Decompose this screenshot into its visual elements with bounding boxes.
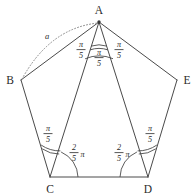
angle-label-adc-numerator: 2 xyxy=(117,143,121,152)
edge-de xyxy=(148,80,177,177)
angle-label-adc-pi: π xyxy=(126,150,131,159)
angle-label-adc: 2 5 π xyxy=(115,143,131,163)
angle-label-ade-numerator: π xyxy=(148,124,153,133)
vertex-labels: A B C D E xyxy=(6,4,190,195)
vertex-label-c: C xyxy=(46,183,54,195)
angle-label-cad: π 5 xyxy=(95,48,104,68)
angle-label-acd: 2 5 π xyxy=(70,143,86,163)
vertex-dot-a xyxy=(97,20,100,23)
pentagon-edges xyxy=(21,22,177,177)
angle-label-bac-numerator: π xyxy=(79,40,84,49)
angle-label-acd-denominator: 5 xyxy=(72,154,76,163)
angle-label-dae-denominator: 5 xyxy=(117,51,121,60)
angle-label-acb-denominator: 5 xyxy=(46,135,50,144)
angle-label-bac: π 5 xyxy=(77,40,86,60)
vertex-label-d: D xyxy=(144,183,152,195)
angle-label-ade-denominator: 5 xyxy=(148,135,152,144)
angle-label-acd-pi: π xyxy=(81,150,86,159)
vertex-label-a: A xyxy=(95,4,104,16)
angle-label-acd-numerator: 2 xyxy=(72,143,76,152)
angle-label-cad-denominator: 5 xyxy=(97,59,101,68)
angle-label-acb-numerator: π xyxy=(46,124,51,133)
angle-label-ade: π 5 xyxy=(146,124,155,144)
edge-ab xyxy=(21,22,99,80)
angle-fraction-labels: π 5 π 5 π 5 π 5 π 5 xyxy=(44,40,155,144)
vertex-label-e: E xyxy=(183,74,190,86)
angle-label-acb: π 5 xyxy=(44,124,53,144)
pentagon-diagram: A B C D E a π 5 π 5 π 5 xyxy=(0,0,195,196)
angle-label-dae: π 5 xyxy=(115,40,124,60)
arc-apex-middle-inner xyxy=(91,45,107,46)
angle-label-adc-denominator: 5 xyxy=(117,154,121,163)
vertex-label-b: B xyxy=(6,74,14,86)
edge-ea xyxy=(99,22,177,80)
angle-label-dae-numerator: π xyxy=(117,40,122,49)
angle-label-bac-denominator: 5 xyxy=(79,51,83,60)
interior-angle-labels: 2 5 π 2 5 π xyxy=(70,143,131,163)
pentagon-figure-svg: A B C D E a π 5 π 5 π 5 xyxy=(0,0,195,196)
length-label-a: a xyxy=(45,31,49,41)
